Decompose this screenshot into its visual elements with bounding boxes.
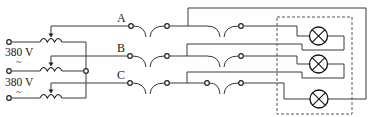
- phase-c-switch1-left-arc-icon: [132, 83, 146, 94]
- phase-c-mid-terminal-icon: [165, 81, 170, 86]
- ac-symbol-1: ~: [16, 56, 22, 67]
- phase-a-input-terminal-icon: [129, 24, 134, 29]
- phase-a-load-wire: [243, 26, 309, 36]
- phase-c-output-terminal-icon: [239, 81, 244, 86]
- phase-a-switch2-right-arc-icon: [224, 26, 239, 37]
- wiper-2-arrow-icon: [49, 63, 54, 67]
- phase-b-output-terminal-icon: [239, 54, 244, 59]
- phase-c-input-terminal-icon: [128, 81, 133, 86]
- neutral-terminal-icon: [84, 69, 89, 74]
- ac-symbol-2: ~: [16, 86, 22, 97]
- source-section: 380 V ~ 380 V ~: [5, 26, 129, 100]
- coil-2-icon: [40, 68, 62, 72]
- coil-3-icon: [40, 95, 62, 99]
- phase-label-a: A: [117, 11, 126, 25]
- phase-a-output-terminal-icon: [239, 24, 244, 29]
- phase-c-extra-terminal-icon: [205, 81, 210, 86]
- phase-a-switch1-left-arc-icon: [133, 26, 146, 37]
- phase-b-switch1-left-arc-icon: [132, 56, 146, 67]
- phase-b-switch2-left-arc-icon: [207, 56, 220, 67]
- wiper-3-arrow-icon: [49, 90, 54, 94]
- phase-b-switch1-right-arc-icon: [150, 56, 165, 67]
- phase-b-load-wire: [243, 56, 309, 64]
- circuit-diagram: 380 V ~ 380 V ~ A B C: [0, 0, 372, 117]
- phase-c-switch2-left-arc-icon: [209, 83, 220, 94]
- lamp-2-icon: [310, 55, 328, 73]
- lamp-3-icon: [310, 90, 328, 108]
- phase-label-c: C: [117, 68, 125, 82]
- coil-1-icon: [40, 39, 62, 43]
- wiper-1-arrow-icon: [49, 34, 54, 38]
- phase-label-b: B: [117, 41, 125, 55]
- switch-set-1: [128, 24, 170, 94]
- phase-b-switch2-right-arc-icon: [224, 56, 239, 67]
- terminal-1-icon: [7, 40, 12, 45]
- phase-b-input-terminal-icon: [128, 54, 133, 59]
- phase-b-mid-terminal-icon: [165, 54, 170, 59]
- phase-c-switch1-right-arc-icon: [150, 83, 165, 94]
- switch-set-2: [205, 24, 244, 94]
- phase-c-switch2-right-arc-icon: [224, 83, 239, 94]
- phase-a-switch2-left-arc-icon: [207, 26, 220, 37]
- terminal-2-icon: [7, 69, 12, 74]
- phase-a-switch1-right-arc-icon: [150, 26, 165, 37]
- terminal-3-icon: [7, 96, 12, 101]
- lamp-1-icon: [310, 27, 328, 45]
- phase-a-mid-terminal-icon: [165, 24, 170, 29]
